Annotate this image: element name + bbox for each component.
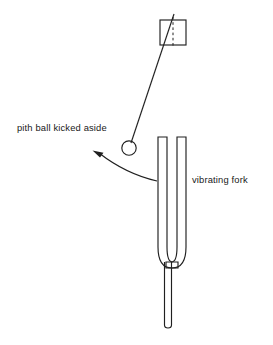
vibrating-fork-label: vibrating fork — [192, 174, 248, 185]
tuning-fork-right-tine — [166, 137, 186, 268]
diagram-canvas: pith ball kicked aside vibrating fork — [0, 0, 273, 345]
suspension-string — [131, 14, 174, 143]
tuning-fork-left-tine — [158, 137, 178, 268]
tuning-fork-group — [158, 137, 186, 328]
pith-ball-label: pith ball kicked aside — [17, 122, 107, 133]
motion-arrow-arc — [99, 153, 157, 181]
tuning-fork-handle — [165, 262, 172, 328]
motion-arrow-head — [93, 151, 104, 158]
motion-arrow-group — [93, 151, 158, 182]
pith-ball — [122, 141, 136, 155]
suspension-string-group — [131, 14, 174, 143]
tuning-fork-diagram: pith ball kicked aside vibrating fork — [0, 0, 273, 345]
pith-ball-group — [122, 141, 136, 155]
